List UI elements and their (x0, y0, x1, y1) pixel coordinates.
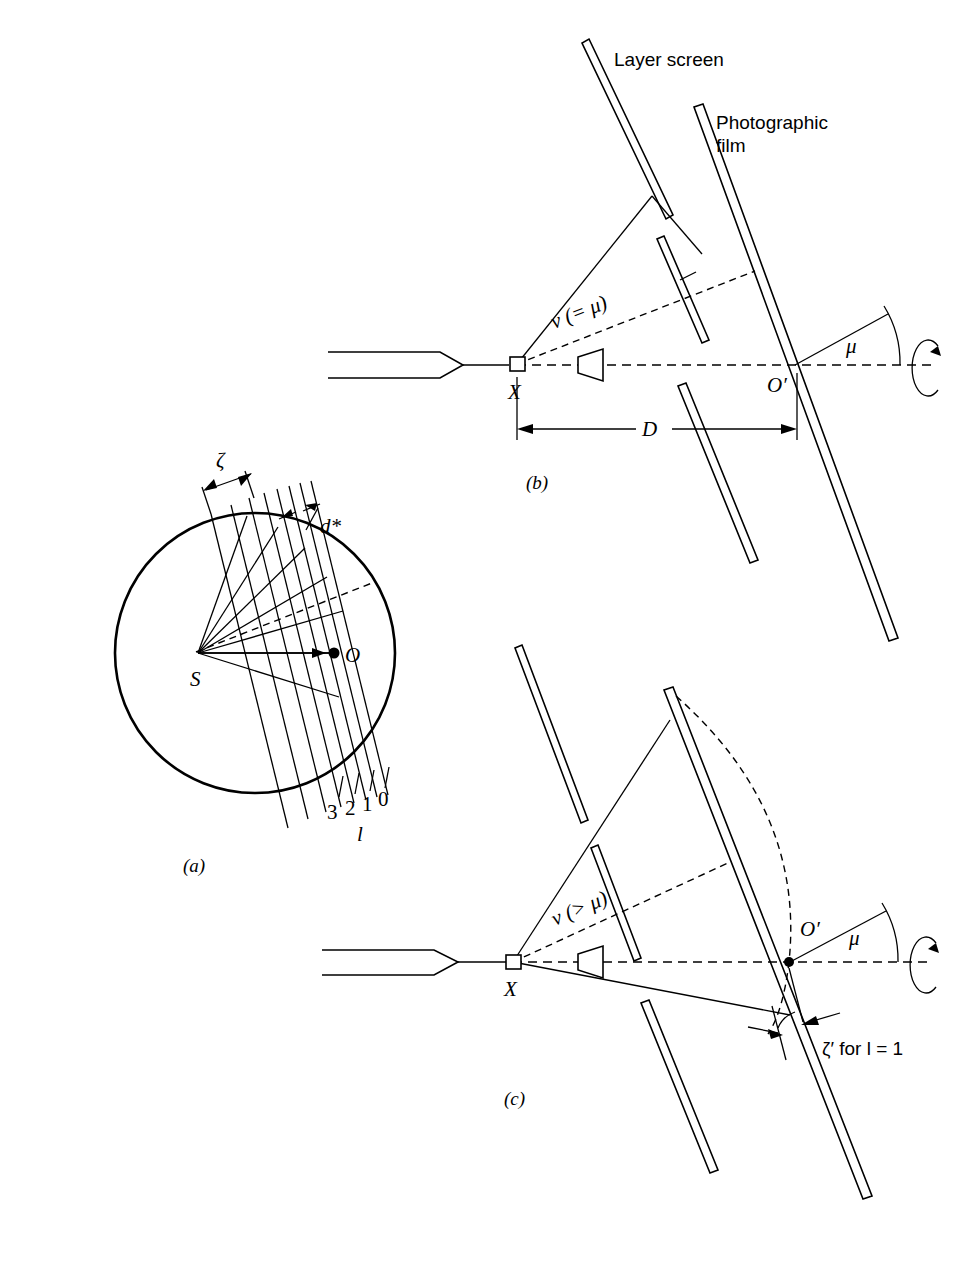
layer-number-1: 1 (362, 792, 373, 816)
crystal-label-b: X (507, 380, 522, 404)
origin-label-a: O (345, 643, 360, 667)
crystal-label-c: X (503, 977, 518, 1001)
figure-container: Layer screen Photographic film ν (= μ) X… (0, 0, 979, 1263)
layer-screen-label: Layer screen (614, 49, 724, 70)
page-background (0, 0, 979, 1263)
layer-number-0: 0 (378, 787, 389, 811)
photographic-film-label-line2: film (716, 135, 746, 156)
mu-label-b: μ (845, 334, 857, 358)
zeta-label-a: ζ (216, 448, 226, 472)
film-origin-label-c: O′ (800, 917, 820, 941)
layer-index-axis-label: l (357, 822, 363, 846)
panel-c-caption: (c) (504, 1088, 525, 1110)
dstar-label-a: d* (320, 514, 342, 538)
sphere-center-label-a: S (190, 667, 201, 691)
layer-number-2: 2 (345, 796, 356, 820)
diagram-svg: Layer screen Photographic film ν (= μ) X… (0, 0, 979, 1263)
panel-b-caption: (b) (526, 472, 548, 494)
film-origin-label-b: O′ (767, 373, 787, 397)
origin-point-a (329, 648, 340, 659)
film-origin-point-c (784, 957, 794, 967)
panel-a-caption: (a) (183, 855, 205, 877)
mu-label-c: μ (848, 926, 860, 950)
layer-number-3: 3 (327, 800, 338, 824)
photographic-film-label-line1: Photographic (716, 112, 828, 133)
distance-label-b-top: D (641, 417, 657, 441)
zeta-prime-label-c: ζ′ for l = 1 (822, 1038, 903, 1059)
crystal-marker-b (510, 357, 525, 371)
crystal-marker-c (506, 955, 521, 969)
